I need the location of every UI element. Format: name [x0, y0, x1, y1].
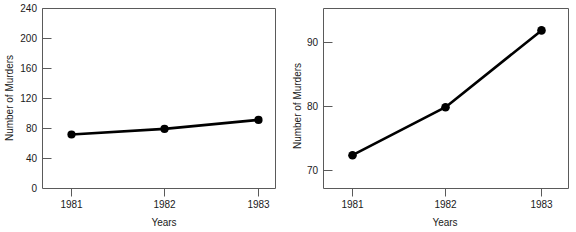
left-data-point-1983: [254, 116, 262, 124]
right-ytick-label-70: 70: [307, 165, 319, 176]
left-data-point-1981: [67, 130, 75, 138]
left-y-axis-title: Number of Murders: [4, 55, 15, 141]
left-ytick-label-80: 80: [26, 123, 38, 134]
chart-panel-right: 90 80 70 1981 1982 1983 Number of Murder…: [288, 0, 576, 232]
left-xtick-label-1981: 1981: [60, 199, 83, 210]
right-data-point-1981: [348, 151, 357, 160]
left-ytick-label-200: 200: [20, 33, 37, 44]
right-xtick-label-1981: 1981: [341, 199, 364, 210]
left-ytick-label-40: 40: [26, 153, 38, 164]
two-panel-line-chart-figure: 240 200 160 120 80 40 0 1981 1982 1983 N…: [0, 0, 576, 232]
left-chart-frame: [43, 9, 276, 189]
right-data-point-1983: [537, 26, 546, 35]
left-xtick-label-1982: 1982: [153, 199, 176, 210]
left-ytick-label-120: 120: [20, 93, 37, 104]
chart-panel-left: 240 200 160 120 80 40 0 1981 1982 1983 N…: [0, 0, 288, 232]
left-data-point-1982: [160, 125, 168, 133]
right-xtick-label-1983: 1983: [530, 199, 553, 210]
left-chart-svg: 240 200 160 120 80 40 0 1981 1982 1983 N…: [0, 0, 288, 232]
right-series-line: [353, 30, 542, 155]
right-data-point-1982: [441, 103, 450, 112]
right-y-axis-title: Number of Murders: [292, 63, 303, 149]
right-ytick-label-80: 80: [307, 101, 319, 112]
left-xtick-label-1983: 1983: [247, 199, 270, 210]
right-xtick-label-1982: 1982: [434, 199, 457, 210]
right-ytick-label-90: 90: [307, 37, 319, 48]
left-ytick-label-0: 0: [31, 183, 37, 194]
right-chart-axes: [324, 9, 569, 189]
left-ytick-label-240: 240: [20, 3, 37, 14]
right-chart-frame: [324, 9, 569, 189]
left-x-axis-title: Years: [151, 217, 176, 228]
left-ytick-label-160: 160: [20, 63, 37, 74]
right-x-axis-title: Years: [432, 217, 457, 228]
left-chart-axes: [43, 9, 276, 189]
right-chart-svg: 90 80 70 1981 1982 1983 Number of Murder…: [288, 0, 576, 232]
